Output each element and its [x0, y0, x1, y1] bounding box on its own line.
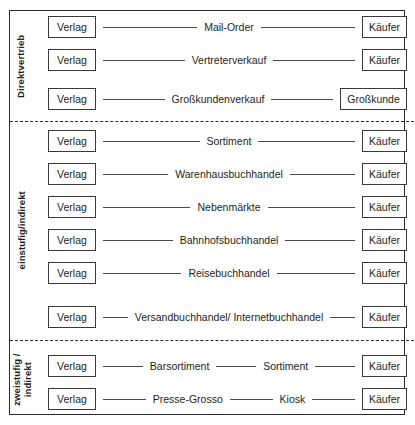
customer-node: Großkunde	[340, 88, 407, 110]
connector-line	[103, 27, 197, 28]
channel-label: Mail-Order	[197, 22, 261, 33]
customer-node: Käufer	[362, 306, 407, 328]
channel-label: Vertreterverkauf	[185, 55, 274, 66]
channel-label: Presse-Grosso	[146, 394, 230, 405]
publisher-node: Verlag	[48, 388, 96, 410]
channel-connector: Großkundenverkauf	[96, 94, 340, 105]
publisher-node: Verlag	[48, 262, 96, 284]
connector-line	[330, 317, 355, 318]
publisher-node: Verlag	[48, 16, 96, 38]
group-label-text: einstufig/indirekt	[17, 191, 28, 269]
connector-line	[103, 366, 143, 367]
channel-connector: Vertreterverkauf	[96, 55, 362, 66]
customer-node: Käufer	[362, 262, 407, 284]
connector-line	[258, 141, 355, 142]
channel-connector: Sortiment	[96, 136, 362, 147]
channel-row: VerlagVersandbuchhandel/ Internetbuchhan…	[48, 306, 407, 328]
connector-line	[285, 240, 355, 241]
connector-line	[290, 174, 355, 175]
group-label-zweistufig-indirekt: zweistufig / indirekt	[0, 346, 44, 414]
channel-label: Bahnhofsbuchhandel	[173, 235, 286, 246]
connector-line	[216, 366, 256, 367]
customer-node: Käufer	[362, 49, 407, 71]
channel-label: Warenhausbuchhandel	[168, 169, 290, 180]
channel-label: Reisebuchhandel	[181, 268, 276, 279]
channel-connector: Bahnhofsbuchhandel	[96, 235, 362, 246]
publisher-node: Verlag	[48, 88, 96, 110]
customer-node: Käufer	[362, 229, 407, 251]
publisher-node: Verlag	[48, 355, 96, 377]
channel-connector: Mail-Order	[96, 22, 362, 33]
channel-label: Nebenmärkte	[190, 202, 267, 213]
channel-row: VerlagReisebuchhandelKäufer	[48, 262, 407, 284]
connector-line	[312, 399, 355, 400]
connector-line	[103, 141, 200, 142]
connector-line	[103, 60, 185, 61]
group-label-einstufig-indirekt: einstufig/indirekt	[0, 126, 44, 334]
customer-node: Käufer	[362, 130, 407, 152]
publisher-node: Verlag	[48, 130, 96, 152]
channel-row: VerlagPresse-GrossoKioskKäufer	[48, 388, 407, 410]
customer-node: Käufer	[362, 196, 407, 218]
channel-connector: Presse-GrossoKiosk	[96, 394, 362, 405]
connector-line	[103, 399, 146, 400]
connector-line	[271, 99, 333, 100]
customer-node: Käufer	[362, 388, 407, 410]
channel-label: Versandbuchhandel/ Internetbuchhandel	[128, 312, 331, 323]
channel-row: VerlagSortimentKäufer	[48, 130, 407, 152]
channel-label: Kiosk	[273, 394, 313, 405]
channel-label: Sortiment	[200, 136, 259, 147]
channel-row: VerlagWarenhausbuchhandelKäufer	[48, 163, 407, 185]
connector-line	[103, 240, 173, 241]
connector-line	[230, 399, 273, 400]
group-divider	[10, 121, 414, 122]
customer-node: Käufer	[362, 163, 407, 185]
customer-node: Käufer	[362, 355, 407, 377]
channel-row: VerlagVertreterverkaufKäufer	[48, 49, 407, 71]
group-label-direktvertrieb: Direktvertrieb	[0, 14, 44, 118]
publisher-node: Verlag	[48, 49, 96, 71]
connector-line	[103, 273, 181, 274]
connector-line	[268, 207, 355, 208]
connector-line	[103, 207, 190, 208]
channel-label: Sortiment	[256, 361, 315, 372]
connector-line	[103, 174, 168, 175]
channel-row: VerlagMail-OrderKäufer	[48, 16, 407, 38]
channel-connector: Warenhausbuchhandel	[96, 169, 362, 180]
connector-line	[315, 366, 355, 367]
group-divider	[10, 340, 414, 341]
publisher-node: Verlag	[48, 306, 96, 328]
channel-row: VerlagGroßkundenverkaufGroßkunde	[48, 88, 407, 110]
channel-row: VerlagNebenmärkteKäufer	[48, 196, 407, 218]
customer-node: Käufer	[362, 16, 407, 38]
channel-connector: Nebenmärkte	[96, 202, 362, 213]
channel-connector: Reisebuchhandel	[96, 268, 362, 279]
connector-line	[273, 60, 355, 61]
connector-line	[103, 99, 165, 100]
group-label-text: Direktvertrieb	[17, 34, 28, 97]
channel-row: VerlagBahnhofsbuchhandelKäufer	[48, 229, 407, 251]
channel-connector: Versandbuchhandel/ Internetbuchhandel	[96, 312, 362, 323]
connector-line	[103, 317, 128, 318]
channel-label: Barsortiment	[143, 361, 217, 372]
connector-line	[277, 273, 355, 274]
channel-row: VerlagBarsortimentSortimentKäufer	[48, 355, 407, 377]
publisher-node: Verlag	[48, 196, 96, 218]
distribution-channels-diagram: Direktvertriebeinstufig/indirektzweistuf…	[0, 0, 415, 425]
channel-connector: BarsortimentSortiment	[96, 361, 362, 372]
connector-line	[261, 27, 355, 28]
publisher-node: Verlag	[48, 229, 96, 251]
publisher-node: Verlag	[48, 163, 96, 185]
channel-label: Großkundenverkauf	[165, 94, 272, 105]
group-label-text: zweistufig / indirekt	[11, 354, 32, 406]
